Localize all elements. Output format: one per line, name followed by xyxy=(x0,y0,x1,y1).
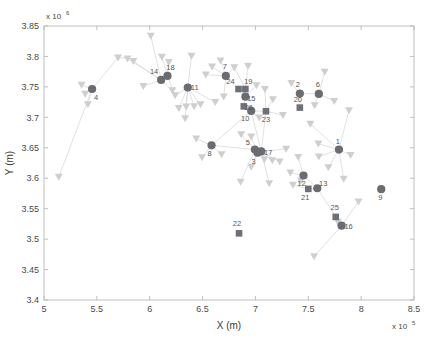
x-tick-label: 6 xyxy=(147,304,152,314)
triangle-marker xyxy=(261,86,269,93)
y-exponent-power: 6 xyxy=(66,10,70,16)
y-tick-label: 3.55 xyxy=(21,204,39,214)
y-tick-label: 3.4 xyxy=(26,295,39,305)
point-label-24: 24 xyxy=(226,77,234,86)
triangle-marker xyxy=(244,63,252,70)
triangle-marker xyxy=(311,102,319,109)
y-tick-label: 3.65 xyxy=(21,143,39,153)
square-marker xyxy=(305,186,312,193)
triangle-marker xyxy=(211,99,219,106)
square-marker xyxy=(236,230,243,237)
connection-line xyxy=(314,226,341,257)
point-label-7: 7 xyxy=(223,62,227,71)
x-axis-title: X (m) xyxy=(217,320,241,331)
triangle-marker xyxy=(294,154,302,161)
y-exponent-label: x 10 xyxy=(46,12,62,21)
triangle-marker xyxy=(198,154,206,161)
triangle-marker xyxy=(276,159,284,166)
square-marker xyxy=(242,86,249,93)
circle-marker xyxy=(207,141,215,149)
point-label-13: 13 xyxy=(319,179,327,188)
point-label-1: 1 xyxy=(336,137,340,146)
y-tick-label: 3.5 xyxy=(26,234,39,244)
circle-marker xyxy=(377,185,385,193)
point-label-12: 12 xyxy=(297,179,305,188)
x-exponent-power: 5 xyxy=(412,320,416,326)
circle-marker xyxy=(88,85,96,93)
triangle-marker xyxy=(182,103,190,110)
square-marker xyxy=(263,108,270,115)
x-tick-label: 7.5 xyxy=(302,304,315,314)
point-label-2: 2 xyxy=(296,80,300,89)
connection-line xyxy=(92,58,118,89)
point-label-21: 21 xyxy=(301,193,309,202)
triangle-marker xyxy=(175,105,183,112)
triangle-marker xyxy=(314,141,322,148)
point-label-11: 11 xyxy=(191,83,199,92)
triangle-marker xyxy=(147,33,155,40)
point-label-19: 19 xyxy=(244,77,252,86)
point-label-26: 26 xyxy=(245,103,253,112)
point-label-3: 3 xyxy=(251,157,255,166)
point-label-14: 14 xyxy=(150,67,158,76)
y-tick-label: 3.85 xyxy=(21,21,39,31)
triangle-marker xyxy=(190,103,198,110)
triangle-marker xyxy=(355,198,363,205)
point-label-17: 17 xyxy=(264,148,272,157)
circle-marker xyxy=(335,146,343,154)
triangle-marker xyxy=(55,174,63,181)
y-axis-title: Y (m) xyxy=(4,151,15,175)
plot-canvas: 4141811715102685317112139162419262320212… xyxy=(0,0,431,342)
y-tick-label: 3.7 xyxy=(26,113,39,123)
triangle-marker xyxy=(218,151,226,158)
square-marker xyxy=(332,214,339,221)
point-label-5: 5 xyxy=(246,138,250,147)
point-label-23: 23 xyxy=(262,115,270,124)
point-label-9: 9 xyxy=(378,193,382,202)
triangle-marker xyxy=(310,253,318,260)
y-tick-label: 3.75 xyxy=(21,82,39,92)
point-label-8: 8 xyxy=(207,149,211,158)
triangle-marker xyxy=(171,92,179,99)
triangle-marker xyxy=(139,83,147,90)
triangle-marker xyxy=(181,115,189,122)
triangle-marker xyxy=(237,179,245,186)
circle-marker xyxy=(163,72,171,80)
triangle-marker xyxy=(279,112,287,119)
circle-markers-layer xyxy=(88,72,385,230)
x-tick-label: 5 xyxy=(41,304,46,314)
x-exponent-label: x 10 xyxy=(392,322,408,331)
triangle-marker xyxy=(269,96,277,103)
triangle-marker xyxy=(268,157,276,164)
triangle-marker xyxy=(324,164,332,171)
triangle-marker xyxy=(220,93,228,100)
triangle-marker xyxy=(330,98,338,105)
triangle-marker xyxy=(321,69,329,76)
y-tick-label: 3.6 xyxy=(26,173,39,183)
triangle-marker xyxy=(187,53,195,60)
triangle-marker xyxy=(208,64,216,71)
point-label-10: 10 xyxy=(241,114,249,123)
triangle-marker xyxy=(315,153,323,160)
connection-line xyxy=(339,110,349,149)
plot-frame xyxy=(44,26,414,300)
x-tick-label: 7 xyxy=(253,304,258,314)
point-label-6: 6 xyxy=(316,80,320,89)
axes-layer: 55.566.577.588.53.43.453.53.553.63.653.7… xyxy=(4,10,420,331)
triangle-marker xyxy=(347,152,355,159)
scatter-plot-figure: 4141811715102685317112139162419262320212… xyxy=(0,0,431,342)
y-tick-label: 3.45 xyxy=(21,265,39,275)
triangle-marker xyxy=(158,54,166,61)
square-marker xyxy=(235,86,242,93)
point-label-20: 20 xyxy=(294,95,302,104)
point-label-22: 22 xyxy=(233,219,241,228)
circle-marker xyxy=(315,90,323,98)
square-marker xyxy=(297,104,304,111)
point-label-4: 4 xyxy=(94,93,98,102)
y-tick-label: 3.8 xyxy=(26,52,39,62)
triangle-marker xyxy=(192,135,200,142)
triangle-marker xyxy=(78,82,86,89)
triangle-marker xyxy=(345,107,353,114)
triangle-marker xyxy=(196,101,204,108)
x-tick-label: 6.5 xyxy=(196,304,209,314)
